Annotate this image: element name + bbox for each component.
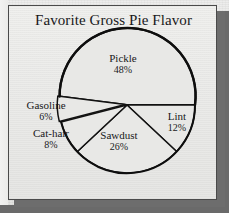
pie-label-sawdust-percent: 26% [87,141,151,152]
page-left-margin [0,0,8,205]
pie-label-pickle-name: Pickle [93,53,153,64]
screenshot-root: Favorite Gross Pie Flavor Pick [0,0,229,213]
pie-label-gasoline-name: Gasoline [15,100,77,111]
chart-card: Favorite Gross Pie Flavor Pick [8,5,217,200]
page-right-shadow [225,11,229,213]
pie-label-cat-hair-percent: 8% [21,139,81,150]
pie-label-cat-hair-name: Cat-hair [21,128,81,139]
pie-label-lint-percent: 12% [155,122,199,133]
pie-chart: Pickle 48% Lint 12% Sawdust 26% Cat-hair… [9,6,217,200]
pie-label-pickle: Pickle 48% [93,53,153,75]
pie-label-lint-name: Lint [155,111,199,122]
pie-label-sawdust-name: Sawdust [87,130,151,141]
pie-label-gasoline-percent: 6% [15,111,77,122]
pie-label-cat-hair: Cat-hair 8% [21,128,81,150]
pie-label-pickle-percent: 48% [93,64,153,75]
pie-label-sawdust: Sawdust 26% [87,130,151,152]
pie-label-gasoline: Gasoline 6% [15,100,77,122]
pie-label-lint: Lint 12% [155,111,199,133]
